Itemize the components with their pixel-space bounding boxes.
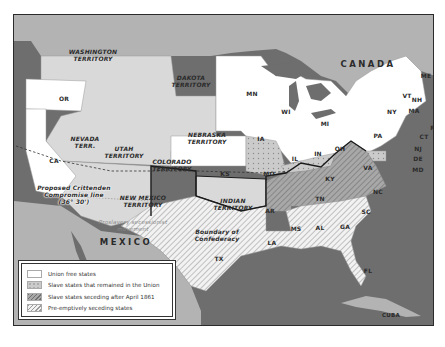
label-ri: RI: [430, 124, 434, 131]
label-mn: MN: [246, 90, 257, 97]
legend-item-preemptive: Pre-emptively seceding states: [27, 303, 167, 315]
label-fl: FL: [364, 267, 372, 274]
label-cuba: CUBA: [382, 312, 400, 319]
label-proslavery-movement: Proslavery secessionist movement: [99, 219, 168, 233]
label-ma: MA: [408, 107, 419, 114]
label-ga: GA: [340, 223, 350, 230]
label-la: LA: [268, 239, 277, 246]
label-in: IN: [314, 150, 322, 157]
label-indian-territory: INDIAN TERRITORY: [213, 197, 252, 211]
label-ny: NY: [387, 108, 397, 115]
label-va: VA: [363, 164, 372, 171]
label-il: IL: [292, 155, 298, 162]
label-tx: TX: [214, 255, 223, 262]
label-me: ME: [421, 72, 431, 79]
label-new-mexico-territory: NEW MEXICO TERRITORY: [120, 194, 166, 208]
label-mexico: MEXICO: [100, 239, 152, 246]
label-utah-territory: UTAH TERRITORY: [104, 145, 143, 159]
label-ct: CT: [420, 133, 429, 140]
label-mi: MI: [321, 120, 330, 127]
label-nj: NJ: [414, 145, 422, 152]
label-nh: NH: [412, 96, 422, 103]
legend-label: Union free states: [48, 271, 96, 277]
label-md: MD: [412, 166, 423, 173]
label-vt: VT: [402, 92, 411, 99]
legend-item-union-free: Union free states: [27, 268, 167, 280]
label-confederacy-boundary: Boundary of Confederacy: [195, 228, 240, 242]
legend-label: Pre-emptively seceding states: [48, 305, 132, 311]
legend-swatch-union-free: [27, 270, 42, 278]
label-crittenden-line: Proposed Crittenden Compromise line (36°…: [37, 184, 111, 205]
legend-swatch-slave-union: [27, 281, 42, 289]
label-ks: KS: [220, 170, 229, 177]
label-nebraska-territory: NEBRASKA TERRITORY: [187, 131, 226, 145]
label-nc: NC: [373, 188, 383, 195]
label-or: OR: [59, 95, 69, 102]
map-legend: Union free states Slave states that rema…: [21, 263, 173, 317]
legend-item-slave-union: Slave states that remained in the Union: [27, 280, 167, 292]
legend-label: Slave states seceding after April 1861: [48, 294, 155, 300]
legend-swatch-preemptive: [27, 304, 42, 312]
label-wi: WI: [281, 108, 290, 115]
label-ky: KY: [325, 175, 334, 182]
label-al: AL: [316, 224, 325, 231]
label-mo: MO: [263, 170, 274, 177]
label-ar: AR: [265, 207, 275, 214]
legend-label: Slave states that remained in the Union: [48, 282, 159, 288]
label-washington-territory: WASHINGTON TERRITORY: [69, 48, 118, 62]
label-de: DE: [413, 155, 422, 162]
label-colorado-territory: COLORADO TERRITORY: [152, 158, 191, 172]
label-ms: MS: [291, 225, 302, 232]
label-nevada-territory: NEVADA TERR.: [71, 135, 100, 149]
label-canada: CANADA: [340, 61, 395, 68]
legend-swatch-seceding-after: [27, 293, 42, 301]
label-oh: OH: [335, 145, 346, 152]
label-tn: TN: [315, 195, 325, 202]
label-pa: PA: [374, 132, 383, 139]
label-ca: CA: [49, 157, 58, 164]
legend-item-seceding-after: Slave states seceding after April 1861: [27, 291, 167, 303]
label-dakota-territory: DAKOTA TERRITORY: [171, 74, 210, 88]
label-ia: IA: [257, 135, 264, 142]
label-sc: SC: [361, 208, 370, 215]
